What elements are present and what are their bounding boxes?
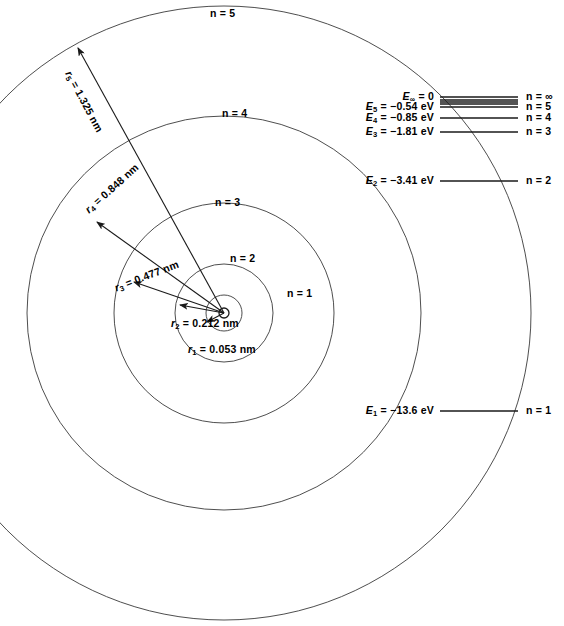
radius-arrow-r3 bbox=[134, 282, 224, 313]
orbit-label-n3: n = 3 bbox=[215, 197, 240, 208]
radius-label-r1: r1 = 0.053 nm bbox=[188, 344, 256, 355]
figure-canvas: n = 1n = 2n = 3n = 4n = 5 r1 = 0.053 nmr… bbox=[0, 0, 564, 626]
energy-value-label-5: E5 = −0.54 eV bbox=[366, 101, 434, 112]
energy-value-label-1: E1 = −13.6 eV bbox=[366, 405, 434, 416]
radius-label-r2: r2 = 0.212 nm bbox=[171, 318, 239, 329]
orbit-label-n5: n = 5 bbox=[210, 8, 235, 19]
orbit-label-n1: n = 1 bbox=[287, 288, 312, 299]
energy-n-label-3: n = 3 bbox=[526, 126, 551, 137]
energy-n-label-5: n = 5 bbox=[526, 101, 551, 112]
energy-value-label-3: E3 = −1.81 eV bbox=[366, 126, 434, 137]
orbit-label-n4: n = 4 bbox=[222, 108, 247, 119]
energy-n-label-2: n = 2 bbox=[526, 175, 551, 186]
energy-level-lines-group bbox=[440, 97, 518, 411]
orbit-label-n2: n = 2 bbox=[230, 253, 255, 264]
energy-value-label-4: E4 = −0.85 eV bbox=[366, 112, 434, 123]
energy-n-label-1: n = 1 bbox=[526, 405, 551, 416]
radius-arrows-group bbox=[78, 48, 224, 322]
energy-value-label-2: E2 = −3.41 eV bbox=[366, 175, 434, 186]
energy-n-label-4: n = 4 bbox=[526, 112, 551, 123]
radius-arrow-r2 bbox=[180, 305, 224, 313]
